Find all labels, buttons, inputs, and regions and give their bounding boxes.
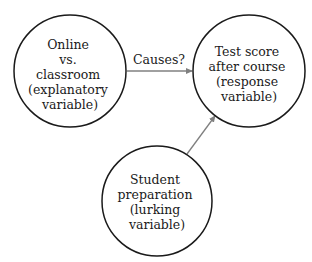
edge-label-causes: Causes? — [133, 52, 185, 67]
node-label-response: Test score after course (response variab… — [209, 44, 290, 104]
edge-causes: Causes? — [127, 52, 192, 71]
causation-diagram: Causes? Online vs. classroom (explanator… — [0, 0, 312, 262]
node-label-lurking: Student preparation (lurking variable) — [118, 172, 197, 232]
edge-lurking — [187, 116, 215, 154]
arrow-lurking — [187, 116, 215, 154]
node-lurking-variable: Student preparation (lurking variable) — [102, 146, 212, 256]
node-explanatory-variable: Online vs. classroom (explanatory variab… — [14, 15, 126, 127]
node-response-variable: Test score after course (response variab… — [193, 15, 305, 127]
node-label-explanatory: Online vs. classroom (explanatory variab… — [28, 37, 112, 112]
